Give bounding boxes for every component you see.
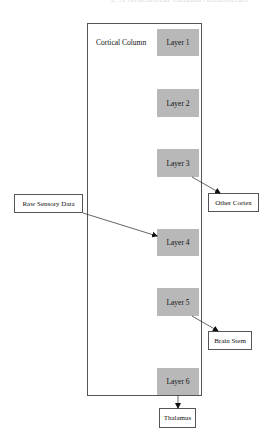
layer-3-node: Layer 3 xyxy=(157,149,199,177)
layer-5-node: Layer 5 xyxy=(157,288,199,316)
other-cortex-node: Other Cortex xyxy=(208,193,259,212)
cortical-column-box xyxy=(87,23,202,396)
cortical-column-label: Cortical Column xyxy=(96,38,146,47)
layer-1-node: Layer 1 xyxy=(157,29,199,56)
header-faint-text: 3. A Neocortical Column Architecture xyxy=(110,0,260,4)
layer-4-node: Layer 4 xyxy=(157,229,199,256)
layer-6-node: Layer 6 xyxy=(157,368,199,395)
brain-stem-node: Brain Stem xyxy=(208,331,252,350)
layer-2-node: Layer 2 xyxy=(157,89,199,117)
thalamus-node: Thalamus xyxy=(159,408,196,428)
raw-sensory-data-node: Raw Sensory Data xyxy=(14,194,83,213)
